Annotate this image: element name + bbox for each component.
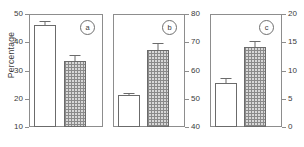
bar-c-open xyxy=(215,83,237,127)
bar-a-open xyxy=(34,25,56,127)
y-tick-label-c-15: 15 xyxy=(288,38,297,46)
y-tick-label-a-30: 30 xyxy=(14,67,23,75)
y-tick-a-50 xyxy=(25,14,29,15)
y-tick-label-a-50: 50 xyxy=(14,10,23,18)
bar-c-hatch xyxy=(244,47,266,127)
error-bar-b-open xyxy=(118,93,140,95)
y-tick-label-c-5: 5 xyxy=(288,95,292,103)
y-tick-label-c-0: 0 xyxy=(288,123,292,131)
y-tick-c-15 xyxy=(282,42,286,43)
y-tick-b-40 xyxy=(185,127,189,128)
y-tick-label-b-50: 50 xyxy=(191,95,200,103)
panel-badge-a: a xyxy=(80,20,95,35)
y-tick-label-b-80: 80 xyxy=(191,10,200,18)
y-tick-label-b-60: 60 xyxy=(191,67,200,75)
y-tick-c-20 xyxy=(282,14,286,15)
panel-badge-c: c xyxy=(259,20,274,35)
y-tick-label-c-20: 20 xyxy=(288,10,297,18)
y-tick-b-60 xyxy=(185,71,189,72)
panel-a: 1020304050a xyxy=(29,14,103,127)
bar-a-hatch xyxy=(64,61,86,127)
y-tick-label-c-10: 10 xyxy=(288,67,297,75)
y-tick-a-20 xyxy=(25,99,29,100)
y-tick-label-b-70: 70 xyxy=(191,38,200,46)
y-tick-c-5 xyxy=(282,99,286,100)
error-bar-cap xyxy=(221,78,232,79)
y-tick-b-70 xyxy=(185,42,189,43)
panel-b: 4050607080b xyxy=(113,14,185,127)
y-tick-b-50 xyxy=(185,99,189,100)
error-bar-cap xyxy=(40,21,51,22)
y-tick-a-10 xyxy=(25,127,29,128)
y-tick-label-a-10: 10 xyxy=(14,123,23,131)
error-bar-cap xyxy=(153,43,164,44)
error-bar-cap xyxy=(70,55,81,56)
error-bar-cap xyxy=(250,41,261,42)
figure-bar-chart-panels: Percentage 1020304050a4050607080b0510152… xyxy=(0,0,304,147)
y-tick-a-30 xyxy=(25,71,29,72)
y-tick-label-a-40: 40 xyxy=(14,38,23,46)
y-tick-b-80 xyxy=(185,14,189,15)
error-bar-b-hatch xyxy=(147,43,169,49)
y-tick-label-b-40: 40 xyxy=(191,123,200,131)
error-bar-c-hatch xyxy=(244,41,266,47)
error-bar-c-open xyxy=(215,78,237,83)
bar-b-open xyxy=(118,95,140,127)
error-bar-a-hatch xyxy=(64,55,86,61)
y-tick-a-40 xyxy=(25,42,29,43)
y-tick-label-a-20: 20 xyxy=(14,95,23,103)
error-bar-cap xyxy=(124,93,135,94)
panel-c: 05101520c xyxy=(210,14,282,127)
y-tick-c-0 xyxy=(282,127,286,128)
y-axis-label: Percentage xyxy=(6,18,16,92)
bar-b-hatch xyxy=(147,50,169,127)
error-bar-a-open xyxy=(34,21,56,24)
y-tick-c-10 xyxy=(282,71,286,72)
panel-badge-b: b xyxy=(162,20,177,35)
